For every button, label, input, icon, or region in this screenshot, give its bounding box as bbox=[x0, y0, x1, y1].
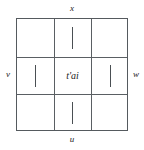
edge-label-bottom: u bbox=[0, 135, 144, 144]
stroke-mark-icon bbox=[72, 27, 73, 49]
diagram-figure: x v w u t'ai bbox=[0, 0, 144, 150]
grid-cell-middle-right bbox=[91, 57, 129, 94]
stroke-mark-icon bbox=[72, 102, 73, 124]
edge-label-right: w bbox=[130, 70, 142, 79]
grid-cell-top-left bbox=[17, 19, 54, 57]
center-label: t'ai bbox=[66, 71, 79, 81]
stroke-mark-icon bbox=[35, 65, 36, 87]
grid-cell-top-center bbox=[54, 19, 91, 57]
grid-cell-middle-center: t'ai bbox=[54, 57, 91, 94]
edge-label-left: v bbox=[2, 70, 14, 79]
grid-outer-square: t'ai bbox=[16, 18, 128, 131]
grid-cell-bottom-right bbox=[91, 94, 129, 132]
grid-cell-bottom-left bbox=[17, 94, 54, 132]
grid-cell-bottom-center bbox=[54, 94, 91, 132]
edge-label-top: x bbox=[0, 4, 144, 13]
grid-cell-top-right bbox=[91, 19, 129, 57]
grid-cell-middle-left bbox=[17, 57, 54, 94]
stroke-mark-icon bbox=[110, 65, 111, 87]
